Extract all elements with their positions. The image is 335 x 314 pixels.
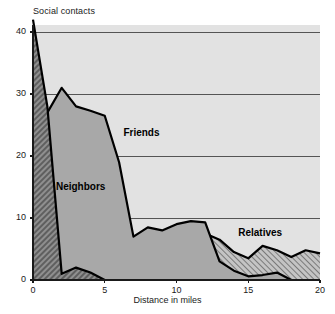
x-tick-label: 5 [93,285,117,295]
x-tick-label: 15 [236,285,260,295]
y-tick-label: 40 [4,26,26,36]
plot-canvas [0,0,335,314]
y-tick-label: 10 [4,212,26,222]
x-tick-label: 20 [308,285,332,295]
y-tick-label: 0 [4,274,26,284]
social-contacts-area-chart: Social contacts Distance in miles 010203… [0,0,335,314]
y-tick-label: 30 [4,88,26,98]
y-tick-label: 20 [4,150,26,160]
series-label-friends: Friends [123,127,159,138]
series-label-neighbors: Neighbors [56,181,105,192]
x-tick-label: 0 [21,285,45,295]
x-tick-label: 10 [165,285,189,295]
series-label-relatives: Relatives [238,227,282,238]
